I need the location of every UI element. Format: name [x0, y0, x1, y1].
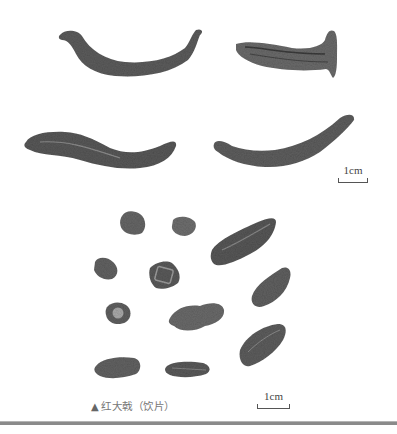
slice-specimen-1: [120, 211, 145, 234]
scale-bar-line: [338, 178, 368, 183]
figure-caption: ▲红大戟（饮片）: [91, 398, 175, 413]
slice-specimen-6: [252, 267, 291, 306]
slice-specimen-11: [165, 362, 210, 377]
slice-specimen-8: [169, 303, 224, 330]
scale-bar-top: 1cm: [338, 165, 368, 183]
root-specimen-1: [59, 29, 202, 76]
root-specimen-3: [24, 132, 176, 169]
scale-bar-line: [257, 404, 290, 409]
divider-rule: [0, 421, 397, 425]
triangle-marker-icon: ▲: [91, 401, 99, 412]
slice-specimen-5: [149, 262, 179, 289]
slice-specimen-2: [172, 217, 196, 236]
slice-specimen-4: [94, 258, 117, 280]
specimen-photos: [0, 0, 397, 434]
slice-specimen-7: [106, 302, 131, 324]
slice-specimen-10: [94, 357, 140, 378]
scale-bar-label: 1cm: [257, 391, 290, 402]
slice-specimen-3: [211, 218, 276, 265]
scale-bar-label: 1cm: [338, 165, 368, 176]
caption-text: 红大戟（饮片）: [101, 400, 175, 412]
scale-bar-bottom: 1cm: [257, 391, 290, 409]
root-specimen-2: [236, 30, 337, 78]
slice-specimen-9: [240, 324, 286, 366]
specimen-plate: 1cm 1cm ▲红大戟（饮片）: [0, 0, 397, 434]
root-specimen-4: [214, 115, 354, 167]
